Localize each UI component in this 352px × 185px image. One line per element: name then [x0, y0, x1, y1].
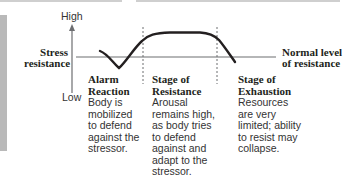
baseline-label-line2: of resistance — [282, 58, 342, 69]
y-axis-arrow-icon — [69, 24, 75, 31]
y-axis-low-label: Low — [62, 92, 81, 103]
stage-desc-line: stressor. — [88, 143, 148, 155]
stage-desc-line: as body tries — [152, 120, 224, 132]
y-axis-title-line2: resistance — [24, 58, 68, 69]
baseline-label: Normal level of resistance — [282, 47, 342, 69]
stage-desc-line: against and — [152, 143, 224, 155]
y-axis-title: Stress resistance — [24, 47, 68, 69]
stage-desc-line: Body is — [88, 97, 148, 109]
stage-desc-line: collapse. — [238, 143, 318, 155]
y-axis-high-label: High — [61, 11, 83, 22]
stage-alarm-reaction: Alarm Reaction Body is mobilized to defe… — [88, 74, 148, 155]
stage-desc-line: stressor. — [152, 166, 224, 178]
stage-title-line1: Alarm — [88, 74, 148, 86]
stage-exhaustion: Stage of Exhaustion Resources are very l… — [238, 74, 318, 155]
stage-desc-line: Resources — [238, 97, 318, 109]
resistance-curve — [100, 33, 235, 69]
stage-title-line1: Stage of — [238, 74, 318, 86]
stage-resistance: Stage of Resistance Arousal remains high… — [152, 74, 224, 178]
stage-desc-line: Arousal — [152, 97, 224, 109]
stage-desc-line: limited; ability — [238, 120, 318, 132]
stage-desc-line: to defend — [88, 120, 148, 132]
stage-title-line1: Stage of — [152, 74, 224, 86]
